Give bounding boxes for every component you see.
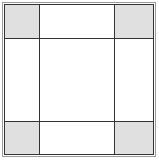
- corner-cell-bottom-left: [5, 122, 39, 154]
- corner-cell-top-right: [115, 5, 153, 38]
- grid-line-horizontal-top: [5, 38, 153, 39]
- grid-line-vertical-left: [39, 5, 40, 154]
- grid-line-horizontal-bottom: [5, 121, 153, 122]
- grid-line-vertical-right: [114, 5, 115, 154]
- square-frame: [4, 4, 154, 155]
- corner-cell-top-left: [5, 5, 39, 38]
- corner-cell-bottom-right: [115, 122, 153, 154]
